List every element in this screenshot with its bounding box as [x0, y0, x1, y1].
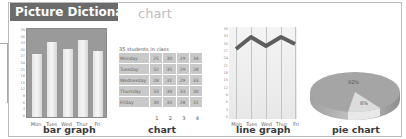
- bar-thur: [78, 40, 88, 117]
- caption-bar-graph: bar graph: [43, 124, 96, 135]
- bar-mon: [32, 54, 42, 117]
- attendance-table: Monday 25 30 29 34 Tuesday 32 35 29 28 W…: [118, 52, 203, 108]
- line-graph-plot: [229, 27, 297, 119]
- bar-graph-plot: [26, 28, 107, 118]
- table-row: Wednesday 28 31 29 33: [119, 75, 202, 85]
- line-series: [229, 27, 297, 119]
- side-bracket-line: [0, 43, 8, 103]
- table-row: Tuesday 32 35 29 28: [119, 64, 202, 74]
- caption-line-graph: line graph: [236, 124, 291, 135]
- table-row: Monday 25 30 29 34: [119, 53, 202, 63]
- table-column-numbers: 1 2 3 4: [150, 115, 204, 121]
- section-heading: chart: [138, 6, 172, 21]
- caption-chart: chart: [148, 124, 176, 135]
- bar-tues: [47, 42, 57, 117]
- table-row: Friday 30 33 28 31: [119, 97, 202, 107]
- bar-wed: [63, 49, 73, 117]
- bar-fri: [93, 51, 103, 117]
- pie-chart: 92% 8%: [308, 70, 402, 122]
- table-row: Thursday 33 34 33 30: [119, 86, 202, 96]
- line-y-axis-labels: 36 33 30 27 24 21 18 15 12 9 6 3 0: [220, 27, 228, 119]
- pie-label-large: 92%: [348, 79, 359, 85]
- caption-pie-chart: pie chart: [332, 124, 380, 135]
- pie-graphic: [308, 70, 402, 122]
- pie-label-small: 8%: [360, 100, 368, 106]
- bar-y-axis-labels: 39 36 33 30 27 24 21 18 15 12 9 6 3 0: [17, 28, 25, 118]
- page-title: Picture Dictionary: [10, 3, 118, 21]
